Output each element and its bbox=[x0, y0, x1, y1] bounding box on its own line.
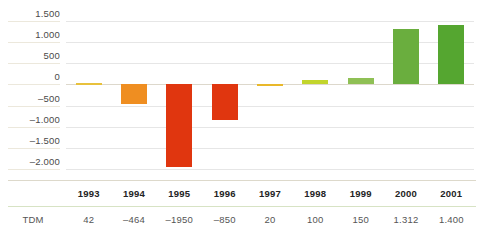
table-value-cell-1996: –850 bbox=[202, 207, 247, 233]
bar-2000 bbox=[393, 29, 419, 85]
bar-slot-1994 bbox=[111, 10, 156, 180]
y-axis-tick-label: –1.000 bbox=[0, 114, 60, 125]
table-value-cell-1995: –1950 bbox=[157, 207, 202, 233]
table-value-cell-1993: 42 bbox=[66, 207, 111, 233]
y-axis-rule bbox=[8, 127, 60, 128]
bar-slot-1998 bbox=[293, 10, 338, 180]
data-table: 199319941995199619971998199920002001 TDM… bbox=[0, 180, 484, 239]
bar-1996 bbox=[212, 84, 238, 120]
bar-slot-1999 bbox=[338, 10, 383, 180]
table-header-cell-1996: 1996 bbox=[202, 181, 247, 207]
table-value-cell-1994: –464 bbox=[111, 207, 156, 233]
table-value-cell-1998: 100 bbox=[293, 207, 338, 233]
table-header-cell-2000: 2000 bbox=[383, 181, 428, 207]
y-axis-rule bbox=[8, 84, 60, 85]
y-axis-tick-label: 1.000 bbox=[0, 29, 60, 40]
bar-chart: 1.5001.0005000–500–1.000–1.500–2.000 199… bbox=[0, 0, 484, 239]
table-header-cell-1993: 1993 bbox=[66, 181, 111, 207]
bar-1995 bbox=[166, 84, 192, 167]
bar-slot-1993 bbox=[66, 10, 111, 180]
y-axis-tick-label: –2.000 bbox=[0, 156, 60, 167]
table-row-label: TDM bbox=[0, 207, 66, 233]
bar-slot-2001 bbox=[429, 10, 474, 180]
table-rule-bottom bbox=[8, 233, 476, 234]
y-axis-tick-label: 1.500 bbox=[0, 8, 60, 19]
bar-slot-1997 bbox=[247, 10, 292, 180]
bar-1993 bbox=[76, 83, 102, 86]
table-header-cell-1994: 1994 bbox=[111, 181, 156, 207]
bar-1994 bbox=[121, 84, 147, 104]
table-row-years: 199319941995199619971998199920002001 bbox=[0, 181, 484, 207]
table-header-cell-1995: 1995 bbox=[157, 181, 202, 207]
table-value-cell-1999: 150 bbox=[338, 207, 383, 233]
y-axis-tick-label: 0 bbox=[0, 71, 60, 82]
table-header-cell-1999: 1999 bbox=[338, 181, 383, 207]
bar-slot-1995 bbox=[157, 10, 202, 180]
bar-slot-2000 bbox=[383, 10, 428, 180]
bar-1998 bbox=[302, 80, 328, 84]
table-header-cell-1998: 1998 bbox=[293, 181, 338, 207]
table-header-cell-2001: 2001 bbox=[429, 181, 474, 207]
y-axis-rule bbox=[8, 63, 60, 64]
table-value-cell-1997: 20 bbox=[247, 207, 292, 233]
y-axis-rule bbox=[8, 106, 60, 107]
table-header-cell-1997: 1997 bbox=[247, 181, 292, 207]
y-axis-tick-label: –1.500 bbox=[0, 135, 60, 146]
y-axis-tick-label: –500 bbox=[0, 93, 60, 104]
y-axis-rule bbox=[8, 148, 60, 149]
y-axis-tick-label: 500 bbox=[0, 50, 60, 61]
bar-2001 bbox=[438, 25, 464, 85]
bar-slot-1996 bbox=[202, 10, 247, 180]
bar-1997 bbox=[257, 84, 283, 87]
bar-1999 bbox=[348, 78, 374, 84]
y-axis-rule bbox=[8, 42, 60, 43]
table-value-cell-2001: 1.400 bbox=[429, 207, 474, 233]
plot-area bbox=[66, 10, 474, 180]
y-axis-rule bbox=[8, 21, 60, 22]
table-value-cell-2000: 1.312 bbox=[383, 207, 428, 233]
y-axis-labels: 1.5001.0005000–500–1.000–1.500–2.000 bbox=[0, 10, 60, 180]
table-row-values: TDM42–464–1950–850201001501.3121.400 bbox=[0, 207, 484, 233]
y-axis-rule bbox=[8, 169, 60, 170]
bar-series bbox=[66, 10, 474, 180]
